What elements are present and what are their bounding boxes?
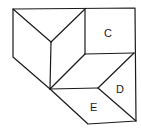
edge-center-to-topmid	[51, 9, 85, 42]
diagram-canvas: C D E	[0, 0, 141, 135]
geometric-figure: C D E	[0, 0, 141, 135]
edge-center-down	[50, 42, 51, 89]
edge-c-bottom	[85, 53, 134, 54]
edge-junction-to-dpoint	[50, 88, 98, 89]
label-d: D	[116, 83, 124, 95]
label-e: E	[90, 101, 97, 113]
edge-topleft-to-center	[13, 9, 51, 42]
edge-c-to-junction	[50, 54, 85, 89]
label-c: C	[104, 27, 112, 39]
